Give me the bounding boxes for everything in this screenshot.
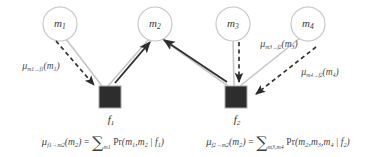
factor-node-f2 xyxy=(225,86,247,108)
factor-graph-figure: m1 m2 m3 m4 f1 f2 μm1→f1(m1) μm3→f2(m3) … xyxy=(0,0,378,157)
variable-node-label-m2: m2 xyxy=(149,17,161,31)
factor-node-squares xyxy=(99,86,247,108)
variable-node-label-m4: m4 xyxy=(302,17,314,31)
message-label-mu-m1-f1: μm1→f1(m1) xyxy=(22,60,60,73)
factor-node-f1 xyxy=(99,86,121,108)
variable-node-label-m1: m1 xyxy=(54,17,66,31)
variable-node-circles xyxy=(43,7,325,41)
message-label-mu-m3-f2: μm3→f2(m3) xyxy=(260,38,298,51)
variable-node-label-m3: m3 xyxy=(227,17,239,31)
arrow-mu-m1-f1 xyxy=(56,41,94,85)
arrow-mu-f2-m2 xyxy=(164,40,227,82)
edge-m2-f1 xyxy=(108,39,149,86)
message-label-mu-m4-f2: μm4→f2(m4) xyxy=(301,66,339,79)
formula-f1-to-m2: μf1→m2(m2) = ∑m1 Pr(m1,m2 | f1) xyxy=(42,133,164,152)
edge-m3-f2 xyxy=(233,41,234,86)
factor-node-label-f1: f1 xyxy=(108,113,115,127)
formula-f2-to-m2: μf2→m2(m2) = ∑m3,m4 Pr(m2,m3,m4 | f2) xyxy=(206,133,350,152)
edge-m1-f1 xyxy=(66,39,102,86)
factor-node-label-f2: f2 xyxy=(234,113,241,127)
arrow-mu-f1-m2 xyxy=(115,42,150,83)
